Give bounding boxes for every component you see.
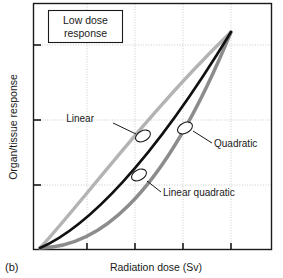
legend-box: Low dose response — [49, 11, 123, 43]
panel-label: (b) — [5, 261, 18, 273]
radiation-dose-response-chart: Linear Quadratic Linear quadratic Low do… — [0, 0, 283, 278]
figure-container: Linear Quadratic Linear quadratic Low do… — [0, 0, 283, 278]
label-linear: Linear — [66, 113, 94, 124]
y-axis-title: Organ/tissue response — [7, 74, 19, 180]
label-linear-quadratic: Linear quadratic — [163, 187, 235, 198]
x-axis-title: Radiation dose (Sv) — [110, 261, 202, 273]
label-quadratic: Quadratic — [214, 138, 257, 149]
legend-line-1: Low dose — [63, 14, 108, 26]
legend-line-2: response — [64, 27, 107, 39]
